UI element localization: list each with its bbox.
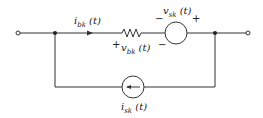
v-bk-label: vbk (t)	[121, 43, 150, 56]
resistor	[122, 29, 141, 37]
voltage-source	[165, 22, 187, 44]
v-sk-label: vsk (t)	[163, 6, 192, 19]
i-bk-arrow-icon	[87, 31, 93, 36]
i-sk-label: isk (t)	[121, 102, 147, 115]
i-bk-label: ibk (t)	[74, 16, 101, 29]
v-bk-minus: −	[158, 40, 166, 50]
current-source-arrowhead	[126, 85, 131, 89]
right-node	[213, 31, 217, 35]
right-terminal	[246, 31, 250, 35]
left-node	[53, 31, 57, 35]
v-sk-plus: +	[192, 14, 200, 24]
left-terminal	[16, 31, 20, 35]
v-bk-plus: +	[112, 40, 120, 50]
